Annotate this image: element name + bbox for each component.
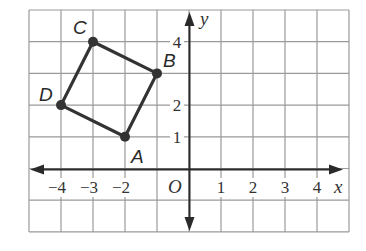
x-axis-left-arrow-icon (30, 165, 44, 175)
point-a (120, 132, 130, 142)
x-tick-label: 1 (217, 178, 226, 197)
y-axis-down-arrow-icon (185, 217, 195, 231)
x-tick-label: 4 (313, 178, 322, 197)
point-label-d: D (39, 84, 53, 105)
point-label-a: A (130, 146, 144, 167)
vertices: ABCD (39, 17, 176, 167)
y-axis-up-arrow-icon (185, 12, 195, 26)
x-axis-label: x (333, 176, 343, 197)
x-tick-label: −4 (48, 178, 67, 197)
point-c (88, 37, 98, 47)
y-tick-label: 4 (173, 33, 182, 52)
coordinate-plane: −4−3−21234124 x y O ABCD (0, 0, 366, 251)
x-axis-right-arrow-icon (329, 165, 343, 175)
y-axis-label: y (198, 8, 209, 29)
point-label-c: C (73, 17, 87, 38)
point-label-b: B (163, 50, 176, 71)
point-b (152, 68, 162, 78)
x-tick-label: 3 (281, 178, 290, 197)
x-tick-label: 2 (249, 178, 258, 197)
x-tick-label: −2 (112, 178, 130, 197)
x-tick-label: −3 (80, 178, 98, 197)
quadrilateral-abcd (61, 42, 157, 137)
axes (30, 12, 343, 231)
y-tick-label: 1 (173, 128, 182, 147)
tick-labels: −4−3−21234124 (46, 33, 323, 197)
y-tick-label: 2 (173, 96, 182, 115)
origin-label: O (168, 176, 182, 197)
point-d (56, 100, 66, 110)
